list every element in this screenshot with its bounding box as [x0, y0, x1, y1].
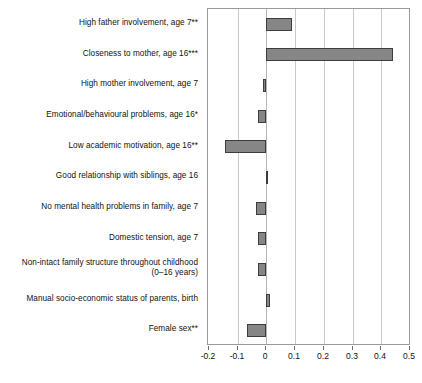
x-tick-mark — [208, 346, 209, 350]
category-label: Low academic motivation, age 16** — [2, 141, 198, 152]
category-label: Closeness to mother, age 16*** — [2, 49, 198, 60]
x-tick-mark — [237, 346, 238, 350]
x-axis-tick-row: -0.2-0.100.10.20.30.40.5 — [207, 346, 410, 366]
bar — [266, 171, 268, 184]
bar — [247, 324, 266, 337]
category-label: Domestic tension, age 7 — [2, 233, 198, 244]
x-tick-mark — [294, 346, 295, 350]
category-label: Female sex** — [2, 324, 198, 335]
bar — [263, 79, 266, 92]
bar — [258, 110, 266, 123]
bar — [266, 18, 292, 31]
x-tick-mark — [265, 346, 266, 350]
bar — [225, 140, 267, 153]
x-tick-mark — [323, 346, 324, 350]
bar — [266, 294, 270, 307]
x-tick-mark — [409, 346, 410, 350]
x-tick-mark — [380, 346, 381, 350]
horizontal-bar-chart: High father involvement, age 7**Closenes… — [0, 0, 422, 383]
plot-area — [207, 8, 410, 345]
bar — [266, 48, 392, 61]
x-tick-label: 0.5 — [389, 351, 422, 361]
category-label: Non-intact family structure throughout c… — [2, 258, 198, 279]
bar — [256, 202, 267, 215]
category-label: High father involvement, age 7** — [2, 18, 198, 29]
bar — [258, 232, 266, 245]
category-label: No mental health problems in family, age… — [2, 202, 198, 213]
category-label: Emotional/behavioural problems, age 16* — [2, 110, 198, 121]
category-label: Good relationship with siblings, age 16 — [2, 171, 198, 182]
category-label-column: High father involvement, age 7**Closenes… — [0, 0, 204, 345]
gridline-neg0_1 — [238, 9, 239, 344]
category-label: High mother involvement, age 7 — [2, 79, 198, 90]
bar — [258, 263, 267, 276]
category-label: Manual socio-economic status of parents,… — [2, 294, 198, 305]
x-tick-mark — [352, 346, 353, 350]
